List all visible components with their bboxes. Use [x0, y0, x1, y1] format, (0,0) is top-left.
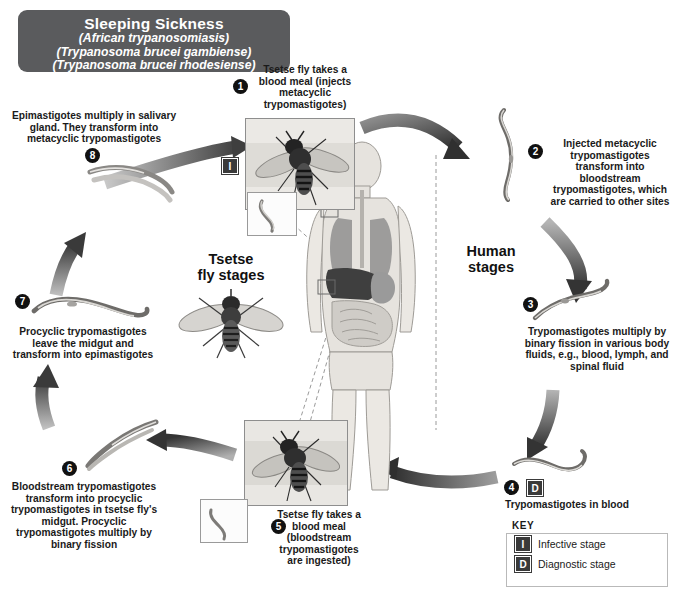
step-4-diagnostic-badge: D [527, 480, 543, 496]
step-4-caption: Trypomastigotes in blood [487, 499, 647, 511]
step-3-trypomastigote [527, 278, 613, 330]
step-4-text: Trypomastigotes in blood [505, 499, 629, 510]
life-cycle-diagram: Sleeping Sickness (African trypanosomias… [0, 0, 679, 598]
arrow-6-to-7 [33, 364, 59, 428]
step-5-caption: Tsetse fly takes a blood meal (bloodstre… [276, 509, 362, 567]
step-1-trypomastigote-inset [247, 192, 297, 236]
step-6-text: Bloodstream trypomastigotes transform in… [11, 481, 157, 550]
tsetse-fly-center-illustration [175, 288, 287, 360]
title-sub-1: (African trypanosomiasis) [18, 32, 290, 46]
metacyclic-trypomastigote-1 [248, 193, 296, 235]
key-row-diagnostic: D Diagnostic stage [507, 554, 667, 574]
step-6-number: 6 [62, 461, 77, 476]
step-3-text: Trypomastigotes multiply by binary fissi… [525, 326, 669, 372]
bloodstream-trypomastigote-5 [201, 500, 247, 542]
step-2-caption: Injected metacyclic trypomastigotes tran… [547, 138, 673, 208]
step-3-number: 3 [523, 297, 538, 312]
human-stages-line2: stages [443, 259, 539, 275]
key-diagnostic-badge: D [515, 556, 531, 572]
step-5-text: Tsetse fly takes a blood meal (bloodstre… [277, 509, 361, 566]
title-main: Sleeping Sickness [18, 15, 290, 32]
key-box: I Infective stage D Diagnostic stage [506, 533, 668, 587]
step-4-number: 4 [504, 480, 519, 495]
step-1-infective-badge: I [222, 158, 238, 174]
step-4-trypomastigote [510, 440, 598, 484]
key-row-infective: I Infective stage [507, 534, 667, 554]
title-sub-2: (Trypanosoma brucei gambiense) [18, 46, 290, 60]
arrow-7-to-8 [56, 232, 86, 295]
vector-stages-label: Tsetse fly stages [176, 251, 286, 283]
step-5-trypomastigote-inset [200, 499, 248, 543]
step-8-text: Epimastigotes multiply in salivary gland… [12, 110, 176, 144]
step-5-fly-photo [244, 420, 348, 506]
step-7-number: 7 [15, 294, 30, 309]
step-2-text: Injected metacyclic trypomastigotes tran… [551, 138, 670, 207]
step-1-caption: Tsetse fly takes a blood meal (injects m… [250, 64, 360, 110]
key-label: KEY [512, 520, 534, 531]
human-stages-line1: Human [443, 243, 539, 259]
tsetse-fly-photo-5 [245, 421, 347, 505]
key-infective-badge: I [515, 536, 531, 552]
step-1-text: Tsetse fly takes a blood meal (injects m… [259, 64, 351, 110]
step-3-caption: Trypomastigotes multiply by binary fissi… [522, 326, 672, 372]
step-7-caption: Procyclic trypomastigotes leave the midg… [8, 326, 158, 361]
key-infective-text: Infective stage [538, 538, 606, 550]
human-stages-label: Human stages [443, 243, 539, 275]
step-7-text: Procyclic trypomastigotes leave the midg… [13, 326, 153, 360]
step-6-epimastigote [64, 416, 174, 476]
step-1-number: 1 [233, 79, 248, 94]
vector-stages-line1: Tsetse [176, 251, 286, 267]
key-diagnostic-text: Diagnostic stage [538, 558, 616, 570]
vector-stages-line2: fly stages [176, 267, 286, 283]
step-2-trypomastigote [474, 104, 538, 204]
diagram-title: Sleeping Sickness (African trypanosomias… [18, 10, 290, 72]
step-6-caption: Bloodstream trypomastigotes transform in… [8, 481, 160, 551]
step-8-caption: Epimastigotes multiply in salivary gland… [10, 110, 178, 145]
step-8-metacyclic-trypomastigote [72, 148, 192, 224]
